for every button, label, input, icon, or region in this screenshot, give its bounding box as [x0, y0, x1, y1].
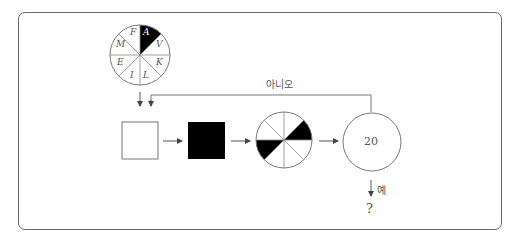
letter-wheel [110, 25, 170, 85]
wheel-letter-f: F [130, 27, 136, 37]
loop-line [151, 95, 371, 112]
black-square [188, 122, 225, 159]
wheel-letter-i: I [130, 70, 134, 80]
white-square [122, 122, 158, 159]
flowchart [0, 0, 508, 242]
wheel-letter-v: V [156, 39, 163, 49]
counter-value: 20 [364, 135, 378, 148]
loop-label: 아니오 [266, 76, 293, 91]
exit-label: 예 [377, 182, 386, 197]
wheel-letter-m: M [116, 39, 125, 49]
wheel-letter-k: K [156, 57, 163, 67]
wheel-letter-l: L [143, 70, 149, 80]
wheel-letter-e: E [117, 57, 124, 67]
sector-circle [256, 112, 312, 168]
result-question: ? [366, 201, 373, 216]
wheel-letter-a: A [143, 27, 150, 37]
